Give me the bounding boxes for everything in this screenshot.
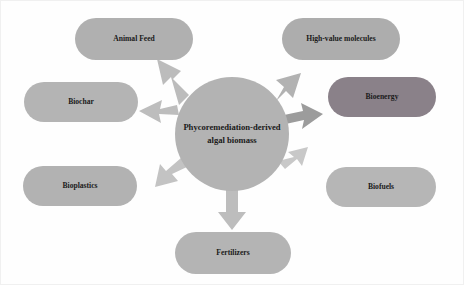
node-bioenergy-label: Bioenergy [366, 92, 399, 101]
arrow-to-high-value-molecules [276, 73, 301, 101]
diagram-canvas: Phycoremediation-derived algal biomass A… [0, 0, 464, 285]
node-bioplastics[interactable]: Bioplastics [23, 166, 137, 206]
node-animal-feed-label: Animal Feed [113, 34, 155, 43]
node-biofuels[interactable]: Biofuels [326, 167, 436, 207]
node-bioplastics-label: Bioplastics [62, 181, 97, 190]
hub-label-line1: Phycoremediation-derived [183, 122, 280, 132]
node-bioenergy[interactable]: Bioenergy [328, 77, 436, 117]
arrow-to-fertilizers [218, 185, 246, 230]
node-high-value-molecules-label: High-value molecules [306, 34, 375, 43]
arrow-to-biochar [139, 100, 179, 123]
hub-label-line2: algal biomass [207, 135, 257, 145]
hub-node-phycoremediation[interactable]: Phycoremediation-derived algal biomass [175, 77, 289, 191]
arrow-to-animal-feed [157, 59, 189, 105]
node-fertilizers-label: Fertilizers [216, 248, 249, 257]
node-biofuels-label: Biofuels [368, 182, 394, 191]
node-animal-feed[interactable]: Animal Feed [75, 18, 193, 60]
node-high-value-molecules[interactable]: High-value molecules [282, 18, 400, 60]
node-biochar-label: Biochar [68, 97, 94, 106]
phycoremediation-products-diagram: Phycoremediation-derived algal biomass A… [1, 1, 464, 285]
node-biochar[interactable]: Biochar [24, 82, 138, 122]
node-fertilizers[interactable]: Fertilizers [175, 232, 291, 274]
